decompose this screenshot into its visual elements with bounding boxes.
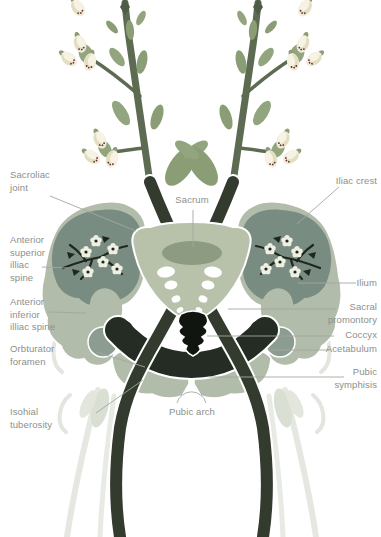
label-ilium: Ilium	[356, 277, 377, 290]
label-pubic-arch: Pubic arch	[158, 406, 226, 419]
label-sacroiliac-joint: Sacroliac joint	[10, 169, 50, 194]
label-obturator-foramen: Orbturator foramen	[10, 343, 54, 368]
label-sacral-promontory: Sacral promontory	[328, 301, 377, 326]
label-sacrum: Sacrum	[161, 194, 223, 207]
label-pubic-symphysis: Pubic symphisis	[334, 366, 377, 391]
pelvis-flowers-artwork	[0, 0, 381, 537]
sacrum-shape	[132, 222, 250, 322]
label-anterior-superior-iliac-spine: Anterior superior illiac spine	[10, 234, 45, 284]
label-iliac-crest: Iliac crest	[336, 175, 377, 188]
label-anterior-inferior-iliac-spine: Anterior inferior illiac spine	[10, 296, 55, 334]
flower-branch-right	[172, 0, 327, 191]
label-coccyx: Coccyx	[345, 329, 377, 342]
label-ischial-tuberosity: Isohial tuberosity	[10, 406, 52, 431]
illustration-canvas: Sacroliac joint Anterior superior illiac…	[0, 0, 381, 537]
flower-branch-left	[56, 0, 211, 191]
label-acetabulum: Acetabulum	[326, 343, 377, 356]
